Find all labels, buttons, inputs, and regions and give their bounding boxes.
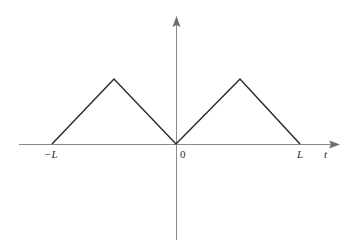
x-tick-label-pos-l: L xyxy=(297,149,303,160)
y-axis-group xyxy=(173,16,181,240)
x-tick-label-zero: 0 xyxy=(180,149,186,160)
x-tick-label-neg-l: −L xyxy=(44,149,58,160)
x-axis-name-label: t xyxy=(324,149,327,160)
figure-canvas: −L 0 L t xyxy=(0,0,357,248)
plot-svg xyxy=(0,0,357,248)
